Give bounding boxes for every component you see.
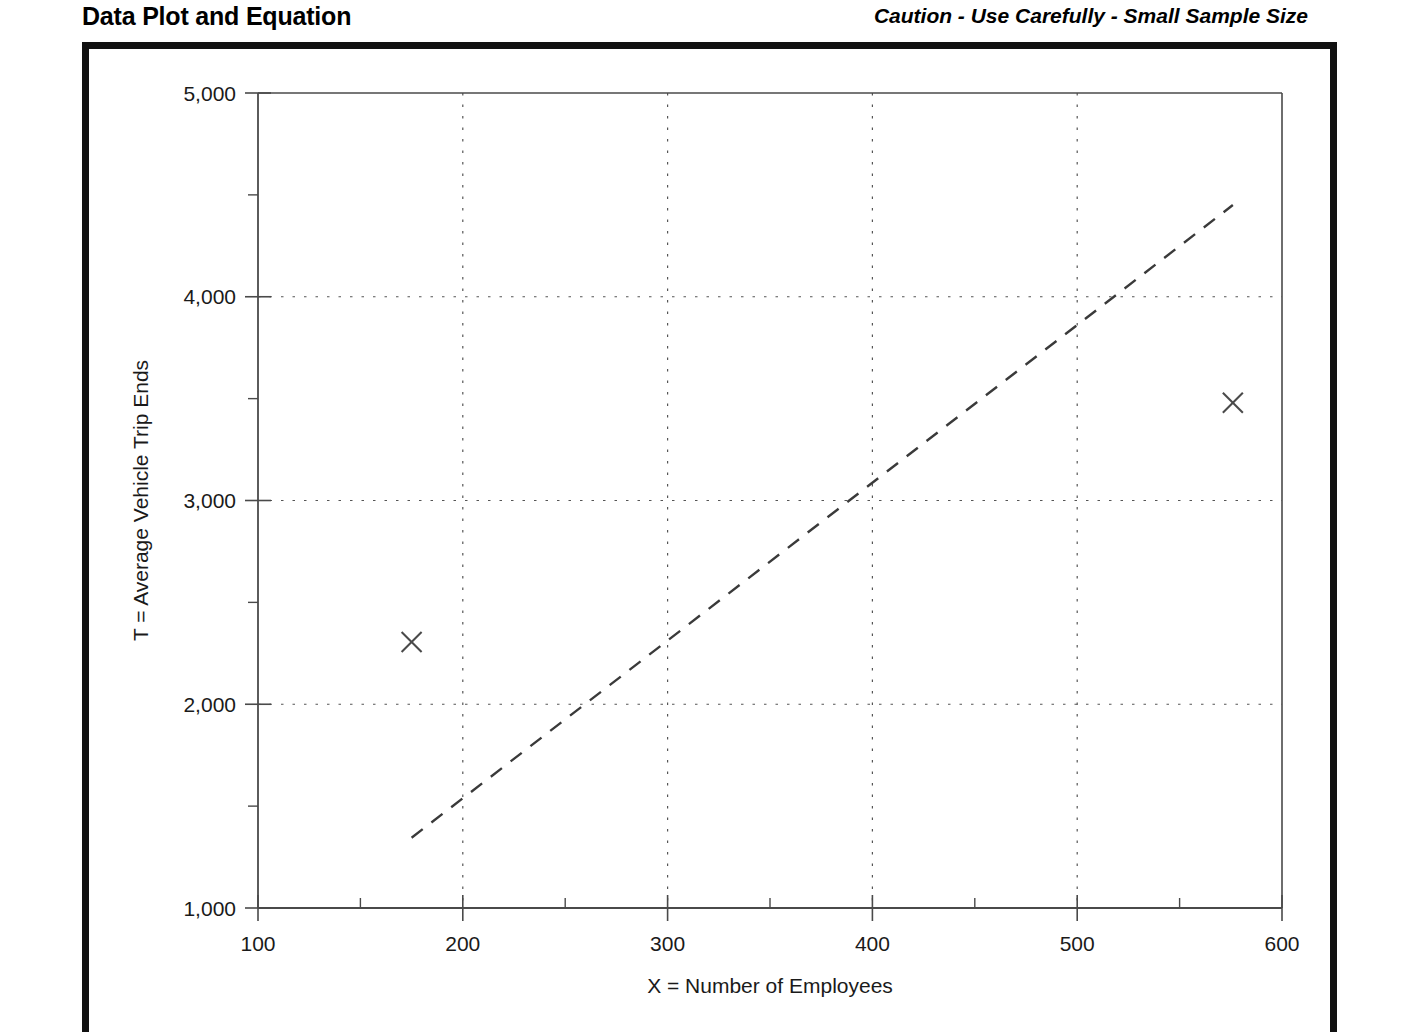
x-axis-tick-label: 400 (855, 932, 890, 955)
y-axis-tick-label: 4,000 (183, 285, 236, 308)
x-axis-tick-label: 300 (650, 932, 685, 955)
data-point-marker-x (1223, 393, 1243, 413)
x-axis-tick-label: 200 (445, 932, 480, 955)
trend-line-dashed (412, 205, 1233, 838)
y-axis-tick-label: 1,000 (183, 897, 236, 920)
x-axis-tick-label: 600 (1264, 932, 1299, 955)
y-axis-tick-label: 2,000 (183, 693, 236, 716)
y-axis-tick-label: 5,000 (183, 82, 236, 105)
x-axis-tick-label: 500 (1060, 932, 1095, 955)
x-axis-title: X = Number of Employees (647, 974, 893, 997)
data-point-marker-x (402, 632, 422, 652)
x-axis-tick-label: 100 (240, 932, 275, 955)
y-axis-tick-label: 3,000 (183, 489, 236, 512)
y-axis-title: T = Average Vehicle Trip Ends (129, 360, 152, 641)
